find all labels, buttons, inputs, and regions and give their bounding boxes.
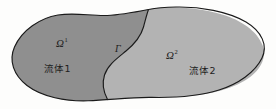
interface-label-gamma: Γ: [115, 44, 121, 54]
omega2-superscript: 2: [174, 48, 177, 55]
fluid1-name-label: 流体1: [44, 64, 71, 74]
fluid2-name-label: 流体2: [189, 66, 216, 76]
omega1-superscript: 1: [64, 36, 67, 43]
domain-diagram-svg: [0, 0, 276, 109]
omega1-symbol: Ω: [56, 37, 64, 49]
region-label-omega1: Ω1: [56, 37, 68, 49]
omega2-symbol: Ω: [166, 49, 174, 61]
region-label-omega2: Ω2: [166, 49, 178, 61]
two-fluid-domain-figure: Ω1 Ω2 Γ 流体1 流体2: [0, 0, 276, 109]
